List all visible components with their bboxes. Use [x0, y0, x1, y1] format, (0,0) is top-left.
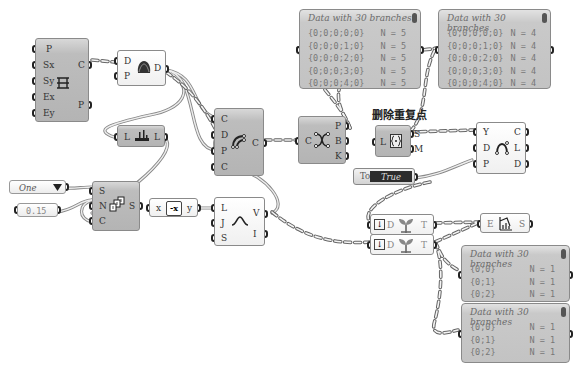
output-grip[interactable]: [527, 220, 533, 228]
series-component[interactable]: S N C S: [92, 181, 140, 231]
panel-row: {0;1}N = 1: [462, 334, 569, 347]
output-label-s: S: [414, 129, 420, 139]
toggle-value[interactable]: True: [370, 171, 412, 182]
input-grip[interactable]: [211, 234, 217, 242]
input-grip[interactable]: [295, 137, 301, 145]
input-grip[interactable]: [89, 187, 95, 195]
curve-endpoints-component[interactable]: C P B K: [298, 116, 346, 164]
input-label-c: C: [221, 114, 228, 124]
input-grip[interactable]: [473, 144, 479, 152]
input-label-p: P: [483, 159, 489, 169]
input-grip[interactable]: [211, 163, 217, 171]
flatten-arrow-icon: ↓: [374, 219, 385, 230]
output-grip[interactable]: [262, 210, 268, 218]
input-grip[interactable]: [114, 133, 120, 141]
input-grip[interactable]: [32, 77, 38, 85]
boolean-toggle[interactable]: Toggle True: [353, 168, 415, 185]
output-grip[interactable]: [523, 144, 529, 152]
shape-component[interactable]: D P D: [117, 50, 166, 86]
output-grip[interactable]: [262, 230, 268, 238]
dropdown-arrow-icon[interactable]: [53, 184, 62, 191]
data-panel-1[interactable]: Data with 30 branches {0;0;0;0;0}N = 5 {…: [299, 9, 421, 89]
simplify-tree-component-2[interactable]: ↓ D T: [370, 234, 434, 255]
output-grip[interactable]: [86, 61, 92, 69]
output-grip[interactable]: [195, 204, 201, 212]
graph-mapper-component[interactable]: L J S V I: [214, 197, 265, 246]
input-grip[interactable]: [89, 202, 95, 210]
input-grip[interactable]: [372, 138, 378, 146]
list-item-component[interactable]: L L: [117, 125, 165, 147]
output-label-k: K: [335, 151, 342, 161]
input-grip[interactable]: [14, 206, 20, 214]
input-label-s: S: [99, 186, 105, 196]
input-label-ey: Ey: [43, 108, 55, 118]
output-grip[interactable]: [261, 139, 267, 147]
shape-blob-icon: [136, 60, 152, 74]
input-grip[interactable]: [211, 219, 217, 227]
output-label-b: B: [335, 136, 342, 146]
output-grip[interactable]: [63, 183, 69, 191]
output-grip[interactable]: [431, 241, 437, 249]
input-grip[interactable]: [114, 72, 120, 80]
input-grip[interactable]: [477, 220, 483, 228]
flatten-arrow-icon: ↓: [374, 239, 385, 250]
curve-component[interactable]: C D P C C: [214, 108, 264, 176]
output-label-t: T: [421, 240, 427, 250]
data-panel-3[interactable]: Data with 30 branches {0;0}N = 1 {0;1}N …: [461, 245, 570, 302]
tree-statistics-component[interactable]: E S: [480, 213, 530, 233]
number-slider[interactable]: 0.15: [17, 203, 58, 217]
output-grip[interactable]: [343, 137, 349, 145]
output-label-p: P: [78, 100, 84, 110]
output-grip[interactable]: [162, 133, 168, 141]
input-grip[interactable]: [367, 221, 373, 229]
output-grip[interactable]: [343, 152, 349, 160]
cull-duplicates-component[interactable]: L S M: [375, 125, 411, 157]
simplify-tree-component-1[interactable]: ↓ D T: [370, 214, 434, 235]
input-grip[interactable]: [211, 115, 217, 123]
negative-component[interactable]: x -x y: [149, 198, 198, 217]
input-grip[interactable]: [473, 160, 479, 168]
output-grip[interactable]: [55, 206, 61, 214]
output-label-y: y: [187, 203, 192, 213]
output-grip[interactable]: [137, 202, 143, 210]
input-grip[interactable]: [32, 109, 38, 117]
panel-scrollbar[interactable]: [561, 249, 566, 259]
output-grip[interactable]: [431, 221, 437, 229]
data-panel-2[interactable]: Data with 30 branches {0;0;0;0;0}N = 4 {…: [438, 9, 551, 89]
input-grip[interactable]: [367, 241, 373, 249]
input-grip[interactable]: [114, 57, 120, 65]
input-grip[interactable]: [146, 204, 152, 212]
output-grip[interactable]: [412, 173, 418, 181]
input-label-n: N: [99, 201, 107, 211]
output-grip[interactable]: [343, 122, 349, 130]
slider-value[interactable]: 0.15: [26, 206, 46, 216]
panel-scrollbar[interactable]: [561, 307, 566, 317]
panel-scrollbar[interactable]: [542, 13, 547, 23]
output-grip[interactable]: [408, 145, 414, 153]
output-label-c: C: [514, 127, 521, 137]
interpolate-curve-component[interactable]: Y D P C L D: [476, 122, 526, 174]
input-label-j: J: [221, 218, 225, 228]
output-label-t: T: [421, 220, 427, 230]
input-label-d: D: [221, 130, 228, 140]
input-grip[interactable]: [89, 217, 95, 225]
rectangular-grid-component[interactable]: P Sx Sy Ex Ey C P: [35, 38, 89, 122]
output-grip[interactable]: [86, 101, 92, 109]
input-label-y: Y: [483, 127, 489, 137]
data-panel-4[interactable]: Data with 30 branches {0;0}N = 1 {0;1}N …: [461, 303, 570, 363]
input-grip[interactable]: [211, 147, 217, 155]
input-grip[interactable]: [32, 45, 38, 53]
input-grip[interactable]: [32, 61, 38, 69]
input-grip[interactable]: [473, 128, 479, 136]
input-grip[interactable]: [211, 204, 217, 212]
tree-stat-icon: [497, 216, 513, 231]
output-grip[interactable]: [163, 65, 169, 73]
input-label-l: L: [221, 203, 227, 213]
output-grip[interactable]: [523, 160, 529, 168]
input-grip[interactable]: [211, 131, 217, 139]
output-grip[interactable]: [523, 128, 529, 136]
output-grip[interactable]: [408, 130, 414, 138]
panel-scrollbar[interactable]: [412, 13, 417, 23]
input-grip[interactable]: [32, 93, 38, 101]
value-list[interactable]: One: [9, 180, 66, 194]
